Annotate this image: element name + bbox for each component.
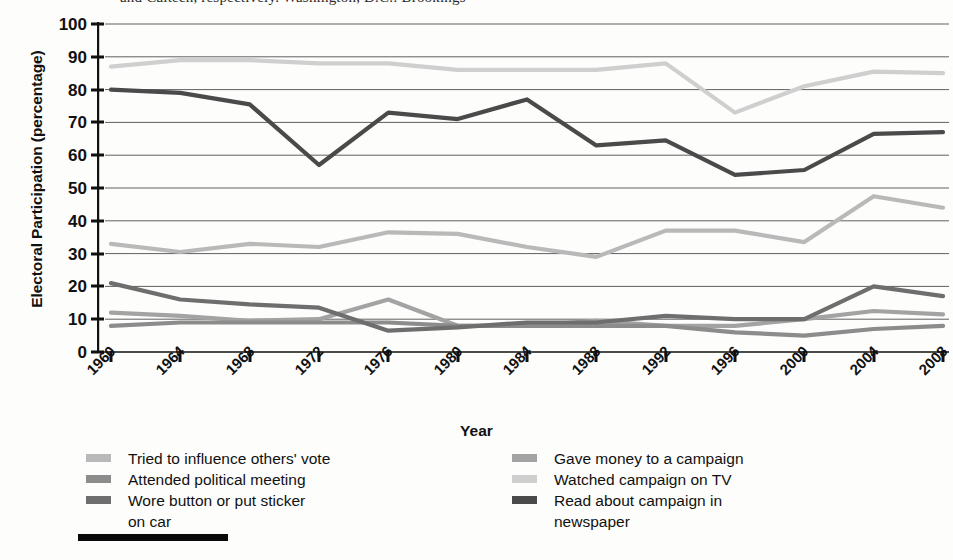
- legend-column-right: Gave money to a campaignWatched campaign…: [512, 448, 744, 532]
- legend-item[interactable]: Gave money to a campaign: [512, 448, 744, 469]
- legend-swatch: [86, 475, 111, 483]
- legend-label: Read about campaign in: [554, 490, 722, 511]
- x-axis-tick-labels: 1960196419681972197619801984198819921996…: [97, 366, 949, 412]
- legend-column-left: Tried to influence others' voteAttended …: [86, 448, 330, 532]
- legend-label: Watched campaign on TV: [554, 469, 732, 490]
- y-tick-label: 100: [41, 16, 87, 33]
- plot-area: [97, 20, 949, 356]
- y-tick-label: 90: [41, 49, 87, 66]
- legend-label-continuation: on car: [86, 511, 330, 532]
- chart-legend: Tried to influence others' voteAttended …: [0, 448, 953, 540]
- legend-swatch: [512, 475, 537, 483]
- y-tick-label: 50: [41, 180, 87, 197]
- legend-label-continuation: newspaper: [512, 511, 744, 532]
- y-tick-label: 0: [41, 344, 87, 361]
- x-axis-title: Year: [0, 422, 953, 440]
- series-line: [111, 90, 943, 175]
- series-0: [111, 60, 943, 113]
- legend-item[interactable]: Wore button or put sticker: [86, 490, 330, 511]
- y-tick-label: 70: [41, 114, 87, 131]
- series-line: [111, 60, 943, 113]
- legend-swatch: [86, 496, 111, 504]
- series-1: [111, 90, 943, 175]
- legend-label: Attended political meeting: [128, 469, 306, 490]
- series-line: [111, 196, 943, 257]
- y-tick-label: 20: [41, 278, 87, 295]
- legend-item[interactable]: Read about campaign in: [512, 490, 744, 511]
- legend-label: Gave money to a campaign: [554, 448, 744, 469]
- legend-label: Wore button or put sticker: [128, 490, 305, 511]
- legend-swatch: [86, 454, 111, 462]
- clipped-caption-text: and Caltech, respectively. Washington, D…: [120, 0, 466, 6]
- y-tick-label: 30: [41, 246, 87, 263]
- chart-svg: [97, 20, 949, 356]
- legend-swatch: [512, 454, 537, 462]
- y-tick-label: 10: [41, 311, 87, 328]
- y-axis-tick-labels: 1009080706050403020100: [41, 20, 87, 356]
- y-tick-label: 40: [41, 213, 87, 230]
- legend-item[interactable]: Watched campaign on TV: [512, 469, 744, 490]
- series-2: [111, 196, 943, 257]
- page-scan-artifact-bar: [78, 534, 228, 541]
- legend-swatch: [512, 496, 537, 504]
- legend-item[interactable]: Tried to influence others' vote: [86, 448, 330, 469]
- clipped-caption-strip: and Caltech, respectively. Washington, D…: [0, 0, 953, 9]
- legend-label: Tried to influence others' vote: [128, 448, 330, 469]
- y-tick-label: 80: [41, 82, 87, 99]
- legend-item[interactable]: Attended political meeting: [86, 469, 330, 490]
- y-tick-label: 60: [41, 147, 87, 164]
